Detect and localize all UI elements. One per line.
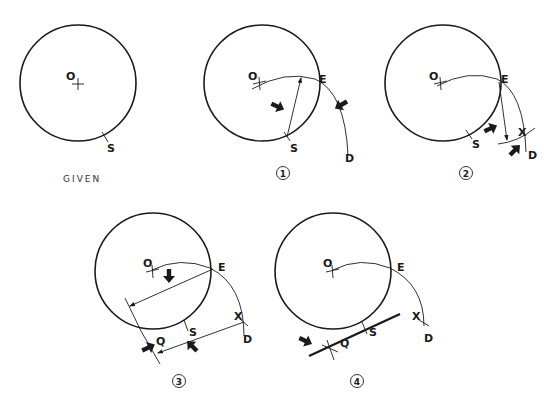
pointer-arrow-icon <box>163 269 175 283</box>
step4-circle <box>275 213 391 329</box>
label-o: O <box>248 70 257 83</box>
label-o: O <box>143 257 152 270</box>
label-q: Q <box>340 337 349 350</box>
label-e: E <box>501 73 509 86</box>
pointer-arrow-icon <box>269 98 287 115</box>
arc-od <box>333 262 424 326</box>
panel-step-3: O E S X D Q 3 <box>95 213 252 388</box>
arc-x <box>498 128 535 144</box>
label-e: E <box>218 261 226 274</box>
label-d: D <box>528 149 537 162</box>
label-d: D <box>345 152 354 165</box>
label-e: E <box>397 261 405 274</box>
label-q: Q <box>156 335 165 348</box>
panel-given: O S GIVEN <box>20 25 136 184</box>
pointer-arrow-icon <box>506 141 524 159</box>
pointer-arrow-icon <box>140 339 158 356</box>
caption-given: GIVEN <box>63 174 101 184</box>
tangent-line <box>309 314 400 356</box>
step-number: 2 <box>463 169 469 179</box>
transfer-line <box>499 82 507 140</box>
label-s: S <box>107 142 115 155</box>
step-number: 4 <box>354 377 360 387</box>
label-x: X <box>518 126 527 139</box>
step1-circle <box>204 25 320 141</box>
pointer-arrow-icon <box>297 333 315 350</box>
arc-od <box>252 76 348 155</box>
label-s: S <box>472 138 480 151</box>
pointer-arrow-icon <box>183 337 201 355</box>
step-number: 3 <box>176 377 182 387</box>
label-x: X <box>234 310 243 323</box>
label-s: S <box>369 326 377 339</box>
panel-step-4: O E X D S Q 4 <box>275 213 433 388</box>
label-d: D <box>243 333 252 346</box>
label-e: E <box>319 73 327 86</box>
label-x: X <box>412 310 421 323</box>
arc-od <box>152 262 244 336</box>
step3-circle <box>95 213 211 329</box>
label-s: S <box>290 142 298 155</box>
label-o: O <box>429 70 438 83</box>
point-s-tick <box>184 320 188 331</box>
construction-diagram: O S GIVEN O E S D 1 O E <box>0 0 555 410</box>
step-number: 1 <box>280 169 286 179</box>
label-o: O <box>66 70 75 83</box>
label-o: O <box>323 257 332 270</box>
panel-step-1: O E S D 1 <box>204 25 354 180</box>
transfer-line <box>130 269 213 306</box>
label-d: D <box>424 332 433 345</box>
panel-step-2: O E S X D 2 <box>385 25 537 180</box>
label-s: S <box>189 326 197 339</box>
arc-q <box>125 298 160 364</box>
